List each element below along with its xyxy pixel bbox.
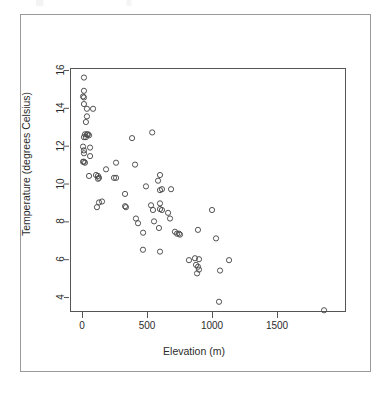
y-axis-title: Temperature (degrees Celsius) <box>20 74 32 254</box>
x-axis-title: Elevation (m) <box>0 345 388 357</box>
figure-frame <box>20 14 371 372</box>
y-tick-label: 14 <box>56 93 66 123</box>
x-tick-label: 500 <box>127 321 167 331</box>
scan-artifact <box>36 0 186 6</box>
y-tick-label: 6 <box>56 244 66 274</box>
y-tick-label: 16 <box>56 55 66 85</box>
y-tick-label: 4 <box>56 282 66 312</box>
y-tick-label: 8 <box>56 206 66 236</box>
y-tick-label: 10 <box>56 169 66 199</box>
x-tick-label: 1000 <box>192 321 232 331</box>
x-tick-label: 1500 <box>257 321 297 331</box>
y-tick-label: 12 <box>56 131 66 161</box>
x-tick-label: 0 <box>62 321 102 331</box>
